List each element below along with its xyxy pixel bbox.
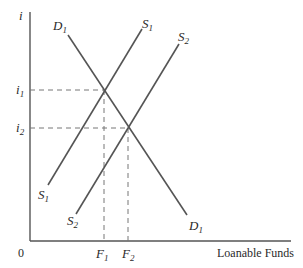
s1-label-bottom: S1	[38, 187, 49, 204]
demand-curve-d1	[68, 35, 187, 215]
loanable-funds-diagram: i 0 Loanable Funds D1 D1 S1 S1 S2 S2 i1 …	[0, 0, 303, 268]
i2-label: i2	[16, 120, 25, 137]
d1-label-top: D1	[52, 18, 67, 35]
supply-curve-s1	[48, 29, 142, 185]
guide-lines	[30, 90, 128, 241]
i1-label: i1	[16, 82, 24, 99]
x-axis-label: Loanable Funds	[217, 246, 294, 260]
y-axis-label: i	[19, 8, 23, 23]
origin-label: 0	[18, 246, 24, 260]
diagram-svg: i 0 Loanable Funds D1 D1 S1 S1 S2 S2 i1 …	[0, 0, 303, 268]
f1-label: F1	[95, 246, 108, 263]
s2-label-bottom: S2	[67, 213, 79, 230]
f2-label: F2	[121, 246, 135, 263]
s2-label-top: S2	[178, 29, 190, 46]
s1-label-top: S1	[142, 16, 153, 33]
d1-label-bottom: D1	[188, 218, 203, 235]
